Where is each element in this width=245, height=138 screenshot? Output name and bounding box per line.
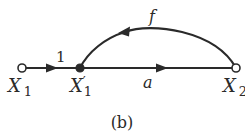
node-x1 <box>18 64 26 72</box>
node-label-main: X <box>221 75 237 96</box>
node-label-sub: 1 <box>24 84 32 99</box>
gain-label-1: 1 <box>56 48 66 66</box>
arrow-icon <box>118 27 130 37</box>
node-label-main: X <box>68 75 84 96</box>
figure-caption: (b) <box>111 113 134 132</box>
feedback-branch-x2-to-x1prime <box>80 28 236 68</box>
node-label-x1-prime: X′1 <box>68 74 92 99</box>
gain-label-f: f <box>148 7 158 26</box>
node-label-sub: 2 <box>239 84 245 99</box>
node-label-x1: X1 <box>6 75 32 99</box>
node-label-main: X <box>6 75 22 96</box>
node-label-x2: X2 <box>221 75 245 99</box>
node-x2 <box>232 64 240 72</box>
node-label-sub: 1 <box>84 84 92 99</box>
gain-label-a: a <box>143 73 153 92</box>
node-x1-prime <box>76 64 84 72</box>
signal-flow-graph: 1 a f X1 X′1 X2 (b) <box>0 0 245 138</box>
arrow-icon <box>156 64 168 73</box>
